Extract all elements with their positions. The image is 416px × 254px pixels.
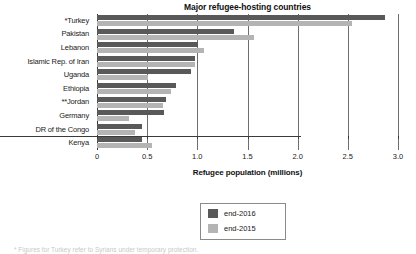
chart-legend: end-2016 end-2015 bbox=[200, 203, 286, 240]
bar-end-2015 bbox=[97, 75, 148, 80]
bar-end-2015 bbox=[97, 48, 204, 53]
category-label: Uganda bbox=[64, 70, 89, 79]
bar-end-2015 bbox=[97, 103, 163, 108]
legend-item-end-2016: end-2016 bbox=[208, 209, 256, 218]
category-label: **Jordan bbox=[61, 97, 89, 106]
bar-end-2015 bbox=[97, 130, 135, 135]
bar-group bbox=[97, 55, 398, 69]
bar-end-2015 bbox=[97, 143, 152, 148]
x-tick-label: 1.0 bbox=[192, 152, 202, 161]
bar-end-2016 bbox=[97, 56, 195, 61]
x-tick-mark bbox=[248, 136, 249, 139]
footnote-text: * Figures for Turkey refer to Syrians un… bbox=[14, 246, 274, 254]
bar-group bbox=[97, 110, 398, 124]
legend-item-end-2015: end-2015 bbox=[208, 224, 256, 233]
bar-end-2016 bbox=[97, 83, 176, 88]
chart-title: Major refugee-hosting countries bbox=[97, 2, 398, 12]
x-axis-title: Refugee population (millions) bbox=[97, 168, 398, 177]
bar-end-2015 bbox=[97, 35, 254, 40]
category-label: Lebanon bbox=[61, 43, 89, 52]
x-tick-mark bbox=[147, 136, 148, 139]
plot-area bbox=[97, 14, 398, 150]
bar-end-2015 bbox=[97, 116, 129, 121]
bar-group bbox=[97, 15, 398, 29]
x-tick-label: 0 bbox=[95, 152, 99, 161]
x-tick-label: 2.5 bbox=[343, 152, 353, 161]
bar-end-2016 bbox=[97, 42, 198, 47]
category-label: DR of the Congo bbox=[35, 125, 89, 134]
bar-end-2016 bbox=[97, 110, 164, 115]
bar-end-2016 bbox=[97, 69, 191, 74]
x-tick-mark bbox=[398, 136, 399, 139]
category-label: Islamic Rep. of Iran bbox=[27, 57, 89, 66]
x-tick-label: 1.5 bbox=[242, 152, 252, 161]
bar-end-2016 bbox=[97, 97, 166, 102]
bar-group bbox=[97, 42, 398, 56]
bar-end-2016 bbox=[97, 137, 142, 142]
x-axis-line bbox=[0, 136, 301, 137]
refugee-bar-chart: Major refugee-hosting countries *TurkeyP… bbox=[0, 0, 416, 254]
x-tick-mark bbox=[298, 136, 299, 139]
bar-end-2015 bbox=[97, 89, 171, 94]
bar-end-2016 bbox=[97, 124, 142, 129]
x-axis-tick-labels: 00.51.01.52.02.53.0 bbox=[97, 152, 398, 164]
category-label: *Turkey bbox=[64, 16, 89, 25]
x-tick-mark bbox=[97, 136, 98, 139]
legend-swatch-icon bbox=[208, 224, 218, 233]
category-label: Pakistan bbox=[61, 29, 89, 38]
bar-end-2016 bbox=[97, 15, 385, 20]
x-tick-mark bbox=[197, 136, 198, 139]
category-label: Germany bbox=[59, 111, 89, 120]
bar-group bbox=[97, 96, 398, 110]
x-tick-label: 2.0 bbox=[292, 152, 302, 161]
legend-label: end-2016 bbox=[224, 209, 256, 218]
x-tick-label: 0.5 bbox=[142, 152, 152, 161]
legend-label: end-2015 bbox=[224, 224, 256, 233]
category-label: Ethiopia bbox=[63, 84, 89, 93]
bar-end-2015 bbox=[97, 62, 195, 67]
category-label: Kenya bbox=[68, 138, 89, 147]
bars-layer bbox=[97, 14, 398, 150]
category-axis-labels: *TurkeyPakistanLebanonIslamic Rep. of Ir… bbox=[0, 14, 93, 150]
gridline bbox=[398, 14, 399, 150]
x-tick-mark bbox=[348, 136, 349, 139]
bar-end-2015 bbox=[97, 21, 352, 26]
bar-group bbox=[97, 69, 398, 83]
x-tick-label: 3.0 bbox=[393, 152, 403, 161]
legend-swatch-icon bbox=[208, 209, 218, 218]
bar-group bbox=[97, 83, 398, 97]
bar-group bbox=[97, 28, 398, 42]
bar-group bbox=[97, 123, 398, 137]
bar-end-2016 bbox=[97, 29, 234, 34]
